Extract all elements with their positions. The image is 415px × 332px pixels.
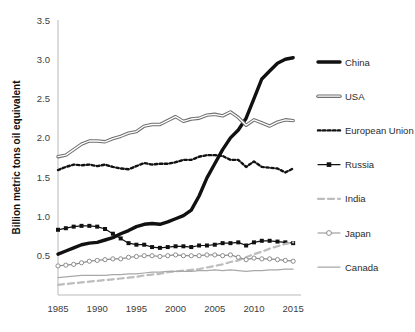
- series-line: [58, 242, 293, 284]
- marker-square: [142, 243, 146, 247]
- marker-square: [228, 241, 232, 245]
- marker-circle: [228, 253, 232, 257]
- axis-frame: [58, 20, 301, 295]
- marker-square: [119, 236, 123, 240]
- legend-item-russia[interactable]: Russia: [318, 159, 375, 170]
- marker-circle: [111, 257, 115, 261]
- series-japan: [56, 253, 295, 268]
- marker-square: [189, 245, 193, 249]
- marker-circle: [181, 254, 185, 258]
- marker-circle: [119, 257, 123, 261]
- legend-label: China: [345, 57, 371, 68]
- marker-circle: [189, 254, 193, 258]
- marker-circle: [283, 258, 287, 262]
- y-tick-label-5: 3.0: [37, 54, 50, 65]
- chart-container: 0.51.01.52.02.53.03.51985199019952000200…: [0, 0, 415, 332]
- series-russia: [56, 224, 295, 250]
- y-tick-label-0: 0.5: [37, 250, 50, 261]
- marker-circle: [72, 262, 76, 266]
- marker-circle: [79, 261, 83, 265]
- marker-circle: [197, 254, 201, 258]
- marker-circle: [236, 255, 240, 259]
- y-tick-label-3: 2.0: [37, 132, 50, 143]
- marker-square: [87, 224, 91, 228]
- marker-circle: [244, 258, 248, 262]
- legend-item-china[interactable]: China: [318, 57, 371, 68]
- marker-square: [56, 228, 60, 232]
- marker-circle: [291, 259, 295, 263]
- legend-item-european-union[interactable]: European Union: [318, 125, 414, 136]
- legend-item-usa[interactable]: USA: [318, 91, 365, 102]
- marker-square: [181, 244, 185, 248]
- marker-square: [150, 245, 154, 249]
- legend-item-japan[interactable]: Japan: [318, 228, 371, 239]
- marker-square: [244, 244, 248, 248]
- marker-square: [221, 241, 225, 245]
- marker-circle: [142, 254, 146, 258]
- x-tick-label-6: 2015: [283, 303, 304, 314]
- legend-item-india[interactable]: India: [318, 193, 366, 204]
- marker-square: [174, 244, 178, 248]
- series-usa: [58, 112, 293, 157]
- marker-circle: [213, 253, 217, 257]
- marker-square: [80, 224, 84, 228]
- series-china: [58, 58, 293, 254]
- marker-circle: [126, 255, 130, 259]
- series-line: [58, 155, 293, 172]
- legend-label: India: [345, 193, 366, 204]
- marker-square: [205, 244, 209, 248]
- x-tick-label-2: 1995: [126, 303, 147, 314]
- legend-label: Canada: [345, 262, 379, 273]
- series-line: [58, 269, 293, 278]
- legend-item-canada[interactable]: Canada: [318, 262, 379, 273]
- marker-circle: [158, 254, 162, 258]
- x-tick-label-1: 1990: [87, 303, 108, 314]
- series-line-outer: [58, 112, 293, 157]
- marker-circle: [150, 254, 154, 258]
- marker-square: [158, 246, 162, 250]
- marker-circle: [166, 254, 170, 258]
- marker-square: [111, 232, 115, 236]
- marker-circle: [221, 254, 225, 258]
- x-tick-label-4: 2005: [204, 303, 225, 314]
- marker-circle: [173, 253, 177, 257]
- y-tick-label-4: 2.5: [37, 93, 50, 104]
- marker-square: [268, 239, 272, 243]
- series-india: [58, 242, 293, 284]
- marker-square: [275, 240, 279, 244]
- marker-square: [134, 243, 138, 247]
- y-axis-title: Billion metric tons oil equivalent: [11, 80, 22, 235]
- marker-square: [64, 226, 68, 230]
- marker-circle: [268, 257, 272, 261]
- line-chart: 0.51.01.52.02.53.03.51985199019952000200…: [0, 0, 415, 332]
- legend-label: European Union: [345, 125, 414, 136]
- marker-circle: [103, 258, 107, 262]
- x-tick-label-0: 1985: [47, 303, 68, 314]
- marker-circle: [56, 264, 60, 268]
- marker-circle: [134, 254, 138, 258]
- x-tick-label-3: 2000: [165, 303, 186, 314]
- marker-square: [72, 225, 76, 229]
- marker-square: [197, 244, 201, 248]
- marker-square: [252, 240, 256, 244]
- y-tick-label-1: 1.0: [37, 211, 50, 222]
- marker-circle: [205, 253, 209, 257]
- legend-marker-circle: [327, 231, 332, 236]
- marker-circle: [275, 258, 279, 262]
- y-tick-label-6: 3.5: [37, 15, 50, 26]
- legend-label: Russia: [345, 159, 375, 170]
- x-tick-label-5: 2010: [243, 303, 264, 314]
- marker-square: [95, 225, 99, 229]
- marker-circle: [87, 259, 91, 263]
- marker-square: [213, 243, 217, 247]
- series-line: [58, 58, 293, 254]
- marker-square: [260, 239, 264, 243]
- marker-square: [103, 227, 107, 231]
- marker-circle: [64, 263, 68, 267]
- legend-marker-square: [327, 162, 332, 167]
- marker-square: [236, 240, 240, 244]
- marker-square: [127, 241, 131, 245]
- marker-circle: [95, 258, 99, 262]
- series-european-union: [58, 155, 293, 172]
- y-tick-label-2: 1.5: [37, 172, 50, 183]
